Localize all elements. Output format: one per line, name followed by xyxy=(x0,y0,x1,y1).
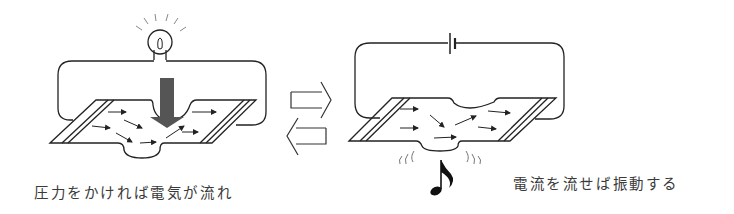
light-bulb-icon xyxy=(136,14,186,60)
left-panel xyxy=(50,14,266,158)
current-arrows xyxy=(92,112,216,143)
battery-icon xyxy=(450,33,455,54)
piezo-plate xyxy=(349,98,556,151)
piezo-plate xyxy=(50,100,256,158)
caption-pressure-to-electricity: 圧力をかければ電気が流れ xyxy=(34,181,233,202)
arrow-left-icon xyxy=(287,118,326,155)
light-rays-icon xyxy=(136,14,186,31)
music-note-icon xyxy=(429,160,453,197)
reversible-arrows-icon xyxy=(287,82,331,155)
pressure-arrow-icon xyxy=(150,78,184,128)
current-arrows xyxy=(400,109,510,138)
arrow-right-icon xyxy=(291,82,331,118)
right-panel xyxy=(349,33,564,164)
vibration-marks-icon xyxy=(399,151,480,164)
caption-current-to-vibration: 電流を流せば振動する xyxy=(513,172,679,193)
